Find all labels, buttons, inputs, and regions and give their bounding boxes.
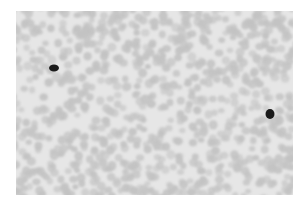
leukocyte-left [49,65,59,72]
blood-smear [16,11,293,195]
micrograph-image [16,11,293,195]
leukocyte-right [266,109,275,119]
